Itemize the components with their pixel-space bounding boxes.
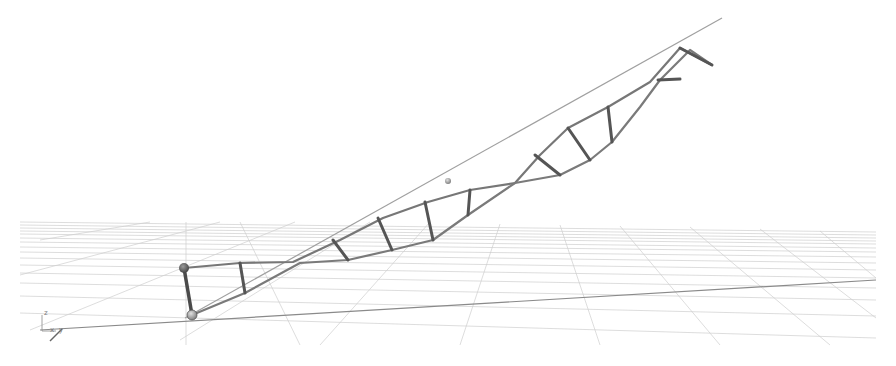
joint-bottom-sphere[interactable] [187, 310, 197, 320]
floating-sphere[interactable] [445, 178, 451, 184]
scene-canvas[interactable] [0, 0, 896, 366]
gizmo-z-label: z [44, 310, 48, 317]
grid-floor [20, 222, 876, 345]
base-strut [184, 268, 192, 315]
gizmo-x-label: x [50, 327, 54, 334]
rungs [240, 48, 712, 293]
ground-axis-line [40, 280, 876, 330]
rail-b [192, 50, 712, 315]
joint-top-sphere[interactable] [179, 263, 189, 273]
3d-viewport[interactable]: z x y [0, 0, 896, 366]
gizmo-y-label: y [59, 327, 63, 334]
central-axis-line [185, 18, 722, 318]
